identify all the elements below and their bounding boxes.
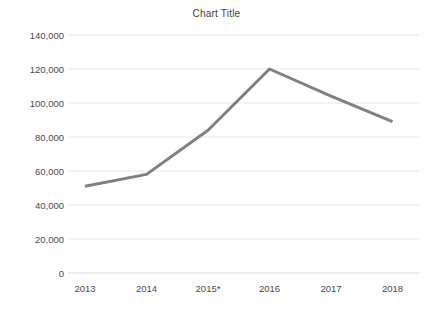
chart-container: Chart Title 020,00040,00060,00080,000100… bbox=[0, 0, 433, 309]
x-axis-tick-label: 2014 bbox=[136, 283, 157, 294]
x-axis-tick-label: 2017 bbox=[320, 283, 341, 294]
x-axis: 201320142015*201620172018 bbox=[0, 0, 433, 309]
x-axis-tick-label: 2018 bbox=[382, 283, 403, 294]
x-axis-tick-label: 2015* bbox=[196, 283, 221, 294]
x-axis-tick-label: 2016 bbox=[259, 283, 280, 294]
x-axis-tick-label: 2013 bbox=[74, 283, 95, 294]
